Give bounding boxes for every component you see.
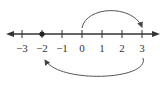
left-arrow-icon <box>6 31 14 37</box>
tick-label: −3 <box>16 42 28 54</box>
tick-label: 2 <box>119 42 125 54</box>
tick-label: 1 <box>99 42 105 54</box>
right-arrow-icon <box>152 31 160 37</box>
number-line-diagram: −3−2−10123 <box>0 0 167 88</box>
tick-label: −1 <box>56 42 68 54</box>
tick-label: −2 <box>36 42 48 54</box>
tick-label: 0 <box>79 42 85 54</box>
arc-zero-to-three <box>82 11 142 28</box>
point-marker <box>39 31 44 36</box>
tick-label: 3 <box>139 42 145 54</box>
arc-three-to-minus-two <box>45 58 143 76</box>
